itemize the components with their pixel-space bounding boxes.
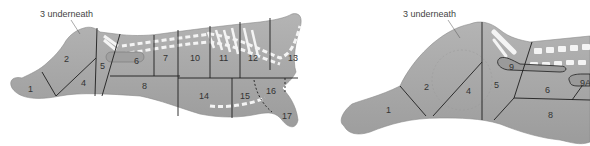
meat-cuts-diagram: 3 underneath 1 2 4 5 6 7 8 10 11 12 13 1… [0, 0, 590, 146]
right-note-3-underneath: 3 underneath [403, 9, 456, 19]
cut-8: 8 [142, 81, 147, 91]
cut-14: 14 [199, 91, 209, 101]
cut-5: 5 [494, 80, 499, 90]
cut-9a: 9A [580, 78, 590, 88]
cut-12: 12 [248, 53, 258, 63]
cut-11: 11 [219, 53, 228, 63]
cut-2: 2 [64, 54, 69, 64]
cut-16: 16 [266, 86, 276, 96]
cut-10: 10 [190, 53, 200, 63]
cut-6: 6 [545, 85, 550, 95]
cut-5: 5 [100, 61, 105, 71]
cut-8: 8 [548, 110, 553, 120]
cut-9: 9 [509, 62, 514, 72]
cut-4: 4 [81, 78, 86, 88]
cut-2: 2 [424, 82, 429, 92]
cut-1: 1 [28, 84, 33, 94]
cut-1: 1 [386, 105, 391, 115]
cut-7: 7 [163, 53, 168, 63]
cut-4: 4 [466, 86, 471, 96]
left-note-3-underneath: 3 underneath [40, 9, 93, 19]
right-carcass-body [341, 22, 590, 144]
cut-15: 15 [240, 91, 250, 101]
right-carcass-diagram: 3 underneath 1 2 4 5 6 8 9 9A [341, 9, 590, 144]
left-carcass-diagram: 3 underneath 1 2 4 5 6 7 8 10 11 12 13 1… [11, 9, 301, 127]
left-carcass-body [11, 14, 301, 127]
cut-17: 17 [282, 111, 292, 121]
cut-6: 6 [134, 56, 139, 66]
cut-13: 13 [288, 53, 298, 63]
